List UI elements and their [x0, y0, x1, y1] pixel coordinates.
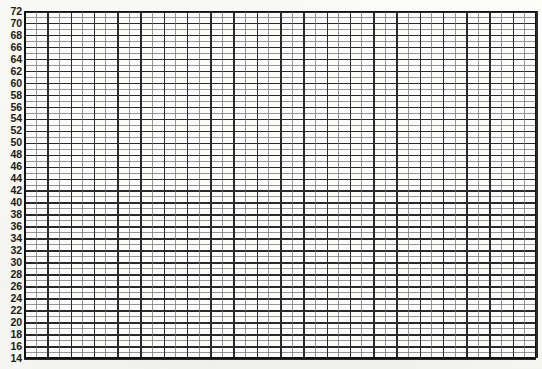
grid-line-minor-v: [292, 11, 293, 358]
y-axis-tick-label: 36: [0, 221, 22, 232]
y-axis-tick-label: 22: [0, 305, 22, 316]
grid-line-minor-v: [82, 11, 83, 358]
y-axis-tick-label: 62: [0, 66, 22, 77]
axis-top-spine: [24, 11, 536, 12]
y-axis-tick-label: 16: [0, 341, 22, 352]
y-axis-tick-label: 48: [0, 149, 22, 160]
grid-line-minor-v: [36, 11, 37, 358]
grid-line-major-v: [233, 11, 235, 358]
y-axis: 7270686664626058565452504846444240383634…: [0, 0, 22, 369]
grid-line-minor-v: [222, 11, 223, 358]
grid-line-major-v: [513, 11, 515, 358]
grid-line-major-v: [420, 11, 422, 358]
axis-right-spine: [535, 11, 536, 358]
axis-bottom-spine: [24, 357, 536, 359]
grid-line-major-v: [210, 11, 212, 358]
grid-line-major-v: [47, 11, 49, 358]
y-axis-tick-label: 46: [0, 161, 22, 172]
y-axis-tick-label: 64: [0, 54, 22, 65]
y-axis-tick-label: 58: [0, 90, 22, 101]
grid-line-major-v: [164, 11, 166, 358]
grid-line-major-v: [117, 11, 119, 358]
plot-grid-area: [24, 11, 536, 358]
grid-line-major-v: [257, 11, 259, 358]
y-axis-tick-label: 42: [0, 185, 22, 196]
y-axis-tick-label: 52: [0, 125, 22, 136]
grid-line-major-v: [94, 11, 96, 358]
grid-line-minor-v: [175, 11, 176, 358]
grid-line-minor-v: [501, 11, 502, 358]
grid-line-minor-v: [478, 11, 479, 358]
grid-line-major-v: [466, 11, 468, 358]
grid-line-minor-v: [455, 11, 456, 358]
grid-line-major-v: [140, 11, 142, 358]
y-axis-tick-label: 28: [0, 269, 22, 280]
grid-line-major-v: [489, 11, 491, 358]
grid-line-minor-v: [245, 11, 246, 358]
y-axis-tick-label: 40: [0, 197, 22, 208]
grid-line-minor-v: [524, 11, 525, 358]
y-axis-tick-label: 70: [0, 18, 22, 29]
grid-line-major-v: [187, 11, 189, 358]
grid-line-minor-v: [268, 11, 269, 358]
grid-line-minor-v: [152, 11, 153, 358]
y-axis-tick-label: 24: [0, 293, 22, 304]
grid-line-major-v: [280, 11, 282, 358]
grid-line-minor-v: [361, 11, 362, 358]
grid-line-major-v: [373, 11, 375, 358]
y-axis-tick-label: 66: [0, 42, 22, 53]
y-axis-tick-label: 68: [0, 30, 22, 41]
y-axis-tick-label: 32: [0, 245, 22, 256]
grid-line-minor-v: [199, 11, 200, 358]
y-axis-tick-label: 60: [0, 78, 22, 89]
grid-line-major-v: [71, 11, 73, 358]
y-axis-tick-label: 18: [0, 329, 22, 340]
y-axis-tick-label: 26: [0, 281, 22, 292]
grid-line-minor-v: [315, 11, 316, 358]
grid-line-minor-v: [105, 11, 106, 358]
y-axis-tick-label: 50: [0, 137, 22, 148]
grid-line-minor-v: [431, 11, 432, 358]
graph-paper-page: 7270686664626058565452504846444240383634…: [0, 0, 542, 369]
grid-line-minor-v: [385, 11, 386, 358]
y-axis-tick-label: 30: [0, 257, 22, 268]
grid-line-minor-v: [408, 11, 409, 358]
y-axis-tick-label: 54: [0, 113, 22, 124]
grid-line-minor-v: [129, 11, 130, 358]
y-axis-tick-label: 34: [0, 233, 22, 244]
grid-line-major-v: [303, 11, 305, 358]
y-axis-tick-label: 14: [0, 353, 22, 364]
y-axis-tick-label: 72: [0, 6, 22, 17]
y-axis-tick-label: 44: [0, 173, 22, 184]
grid-line-minor-v: [59, 11, 60, 358]
grid-line-major-v: [396, 11, 398, 358]
grid-line-major-v: [443, 11, 445, 358]
axis-left-spine: [24, 11, 26, 358]
grid-line-minor-v: [338, 11, 339, 358]
grid-line-major-v: [350, 11, 352, 358]
y-axis-tick-label: 56: [0, 102, 22, 113]
grid-line-major-v: [327, 11, 329, 358]
y-axis-tick-label: 38: [0, 209, 22, 220]
y-axis-tick-label: 20: [0, 317, 22, 328]
